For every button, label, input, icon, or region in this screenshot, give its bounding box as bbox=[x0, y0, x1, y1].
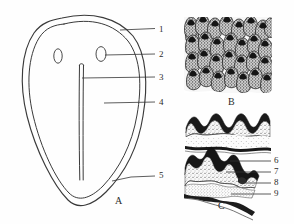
oval-mark-right bbox=[96, 47, 106, 62]
callout-8: 8 bbox=[274, 178, 279, 187]
callout-3: 3 bbox=[159, 73, 164, 82]
panel-label-a: A bbox=[115, 196, 122, 206]
callout-6: 6 bbox=[274, 156, 279, 165]
callout-2: 2 bbox=[159, 50, 164, 59]
panel-label-c: C bbox=[218, 201, 225, 211]
panel-a-median-sulcus bbox=[79, 64, 83, 180]
panel-label-b: B bbox=[228, 97, 235, 107]
panel-b-papillae-field bbox=[184, 15, 276, 96]
callout-4: 4 bbox=[159, 98, 164, 107]
anatomical-figure: 1 2 3 4 5 6 7 8 9 A B C bbox=[0, 0, 294, 224]
panel-mid-section bbox=[185, 113, 271, 153]
oval-mark-left bbox=[54, 49, 62, 63]
callout-5: 5 bbox=[159, 171, 164, 180]
figure-canvas bbox=[0, 0, 294, 224]
callout-9: 9 bbox=[274, 189, 279, 198]
panel-a-outline bbox=[22, 15, 145, 205]
callout-1: 1 bbox=[159, 25, 164, 34]
callout-7: 7 bbox=[274, 167, 279, 176]
panel-a-oval-marks bbox=[54, 47, 106, 64]
